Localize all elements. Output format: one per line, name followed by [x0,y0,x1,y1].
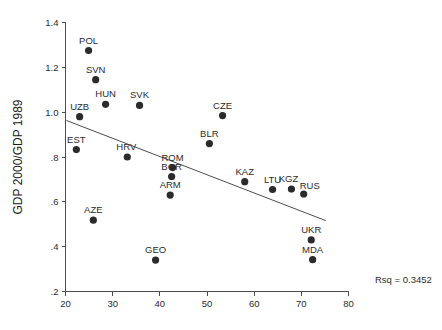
x-tick-label: 60 [249,298,260,309]
data-point-marker [76,113,83,120]
y-tick-label: 1.0 [45,107,58,118]
data-point-label: GEO [145,244,166,255]
x-axis-ticks: 20304050607080 [60,292,354,309]
data-point-label: HUN [95,88,116,99]
y-axis-ticks: .2.4.6.81.01.21.4 [45,17,65,297]
fit-line-segment [66,120,325,220]
data-point-marker [288,185,295,192]
data-point-label: HRV [116,141,137,152]
data-point-marker [300,190,307,197]
x-tick-label: 80 [343,298,354,309]
data-point-label: UKR [301,224,321,235]
data-point-label: SVN [86,64,106,75]
data-point-marker [85,47,92,54]
data-point-marker [167,192,174,199]
data-point-marker [309,256,316,263]
x-tick-label: 30 [107,298,118,309]
x-tick-label: 40 [155,298,166,309]
data-point-label: AZE [84,204,102,215]
data-point-marker [269,186,276,193]
data-point-label: POL [79,35,98,46]
data-point-marker [206,140,213,147]
data-point-marker [102,101,109,108]
data-point-label: ARM [160,179,181,190]
x-tick-label: 50 [202,298,213,309]
data-point-marker [308,236,315,243]
data-point-label: CZE [213,100,232,111]
data-point-marker [92,76,99,83]
y-tick-label: .8 [51,152,59,163]
data-point-label: RUS [300,180,320,191]
axes: .2.4.6.81.01.21.4 20304050607080 [45,17,354,309]
data-point-label: KGZ [279,173,299,184]
data-point-marker [241,178,248,185]
regression-line [66,120,325,220]
data-point-label: BLR [200,128,219,139]
data-point-label: SVK [130,89,150,100]
data-point-marker [73,146,80,153]
y-tick-label: .4 [51,241,59,252]
x-tick-label: 20 [60,298,71,309]
data-point-marker [124,153,131,160]
y-axis-title: GDP 2000/GDP 1989 [11,99,25,214]
scatter-plot-figure: .2.4.6.81.01.21.4 20304050607080 POLSVNH… [0,0,442,330]
data-point-marker [219,112,226,119]
rsq-annotation: Rsq = 0.3452 [375,274,432,285]
data-point-label: EST [67,134,86,145]
data-point-label: KAZ [235,166,254,177]
data-point-label: BGR [161,161,182,172]
data-point-marker [152,257,159,264]
x-tick-label: 70 [296,298,307,309]
data-point-label: MDA [302,244,324,255]
data-points: POLSVNHUNSVKUZBCZEBLRESTHRVROMBGRARMKAZL… [67,35,324,264]
y-tick-label: .6 [51,196,59,207]
y-tick-label: 1.4 [45,17,58,28]
y-tick-label: 1.2 [45,62,58,73]
data-point-marker [136,102,143,109]
data-point-marker [90,217,97,224]
data-point-label: UZB [70,101,89,112]
plot-canvas: .2.4.6.81.01.21.4 20304050607080 POLSVNH… [0,0,442,330]
y-tick-label: .2 [51,286,59,297]
